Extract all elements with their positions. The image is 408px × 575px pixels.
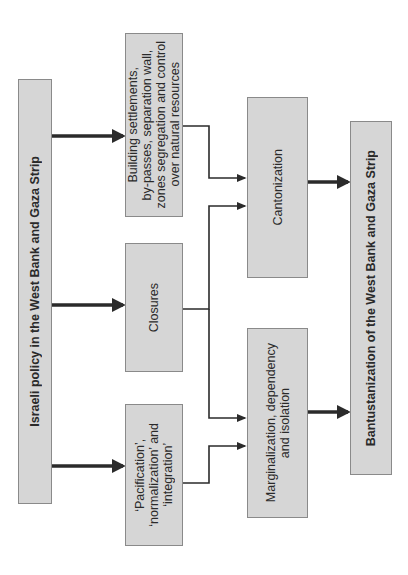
connector-settlements-to-cantonization <box>183 126 245 178</box>
connector-closures-to-marginalization <box>209 309 245 418</box>
node-building-settlements-label: Building settlements, by-passes, separat… <box>126 41 182 208</box>
node-pacification-label: ‘Pacification’, ‘normalization’ and ‘int… <box>133 423 175 527</box>
connector-closures-to-cantonization <box>183 206 245 309</box>
connector-layer <box>0 0 408 575</box>
node-marginalization: Marginalization, dependency and isolatio… <box>247 328 308 518</box>
node-cantonization: Cantonization <box>247 97 308 278</box>
node-bantustanization-label: Bantustanization of the West Bank and Ga… <box>364 150 378 446</box>
node-bantustanization: Bantustanization of the West Bank and Ga… <box>350 121 392 475</box>
node-cantonization-label: Cantonization <box>271 149 285 225</box>
node-building-settlements: Building settlements, by-passes, separat… <box>125 33 183 217</box>
node-israeli-policy: Israeli policy in the West Bank and Gaza… <box>18 79 52 504</box>
node-closures-label: Closures <box>147 283 161 332</box>
node-pacification: ‘Pacification’, ‘normalization’ and ‘int… <box>125 404 183 546</box>
node-marginalization-label: Marginalization, dependency and isolatio… <box>264 343 292 502</box>
node-closures: Closures <box>125 243 183 372</box>
node-israeli-policy-label: Israeli policy in the West Bank and Gaza… <box>28 156 42 427</box>
connector-pacification-to-marginalization <box>183 446 245 483</box>
